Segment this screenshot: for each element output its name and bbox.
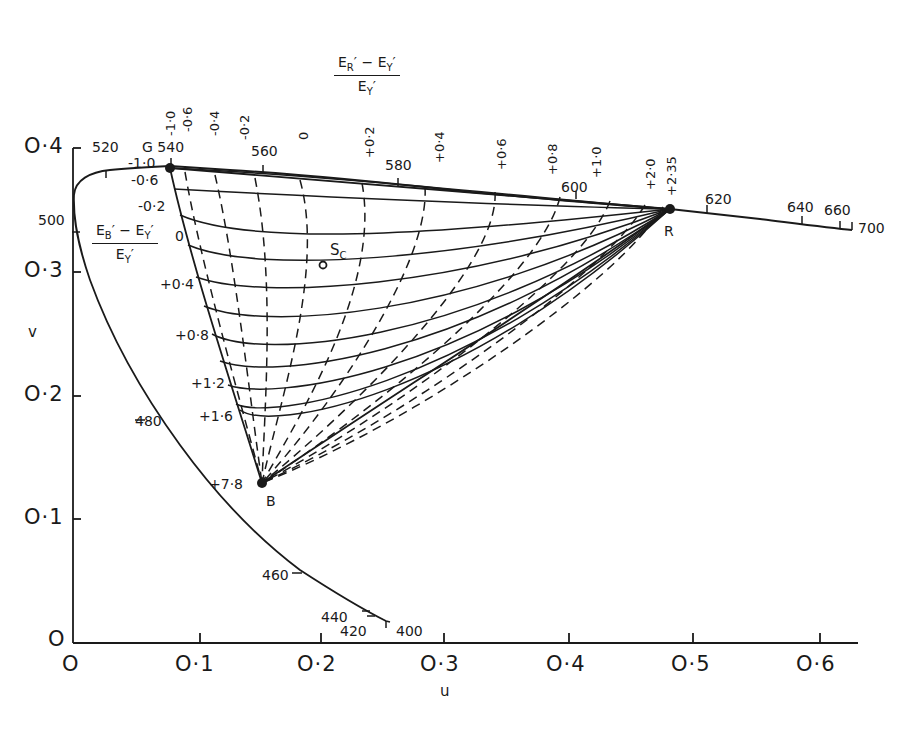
y-tick-3: O·3 [24, 258, 64, 282]
label-g: G 540 [142, 140, 184, 154]
wl-520: 520 [92, 140, 119, 154]
u-axis-label: u [440, 684, 450, 698]
y-tick-2: O·2 [24, 382, 64, 406]
red-difference-formula: ER′ − EY′ EY′ [334, 54, 400, 97]
wl-420: 420 [340, 624, 367, 638]
blue-val-pos7-8: +7·8 [209, 477, 243, 491]
blue-difference-formula: EB′ − EY′ EY′ [92, 222, 158, 265]
red-val-pos0-8: +0·8 [545, 143, 560, 175]
primary-b-label: B [266, 494, 276, 508]
blue-val-pos1-2: +1·2 [191, 376, 225, 390]
wl-700: 700 [858, 221, 885, 235]
blue-val-pos0-4: +0·4 [160, 277, 194, 291]
blue-val-pos0-8: +0·8 [175, 328, 209, 342]
x-tick-1: O·1 [175, 652, 215, 676]
red-val-pos1-0: +1·0 [589, 146, 604, 178]
y-tick-0: O [48, 627, 66, 651]
primary-r-point [665, 204, 675, 214]
v-axis-label: v [28, 325, 37, 339]
blue-val-neg0-2: -0·2 [138, 199, 165, 213]
x-tick-6: O·6 [796, 652, 836, 676]
white-point-label: SC [330, 243, 347, 263]
x-tick-2: O·2 [297, 652, 337, 676]
primary-g-point [165, 163, 175, 173]
wl-460: 460 [262, 568, 289, 582]
x-tick-0: O [62, 652, 80, 676]
red-val-pos0-4: +0·4 [432, 131, 447, 163]
blue-val-neg1-0: -1·0 [128, 156, 155, 170]
primary-b-point [257, 478, 267, 488]
red-val-pos0-6: +0·6 [494, 138, 509, 170]
wl-400: 400 [396, 624, 423, 638]
y-tick-1: O·1 [24, 505, 64, 529]
primary-g-label: G [142, 139, 153, 155]
y-tick-4: O·4 [24, 134, 64, 158]
blue-val-pos1-6: +1·6 [199, 409, 233, 423]
red-val-neg0-4: -0·4 [207, 111, 222, 136]
wl-600: 600 [561, 180, 588, 194]
red-val-neg1-0: -1·0 [163, 111, 178, 136]
wl-480: 480 [135, 414, 162, 428]
u-axis-ticks [200, 633, 820, 643]
wl-560: 560 [251, 144, 278, 158]
red-val-neg0-6: -0·6 [180, 107, 195, 132]
wl-620: 620 [705, 192, 732, 206]
triangle-edge-gb [170, 168, 262, 483]
wl-640: 640 [787, 200, 814, 214]
red-val-pos2-35: +2·35 [664, 156, 679, 196]
red-val-pos2-0: +2·0 [643, 158, 658, 190]
wl-660: 660 [824, 203, 851, 217]
chromaticity-diagram [0, 0, 915, 731]
primary-r-label: R [664, 224, 674, 238]
blue-val-0: 0 [175, 229, 184, 243]
red-difference-lines [185, 172, 663, 483]
wl-500: 500 [38, 213, 65, 227]
wl-580: 580 [385, 158, 412, 172]
red-val-neg0-2: -0·2 [237, 115, 252, 140]
blue-val-neg0-6: -0·6 [131, 173, 158, 187]
white-point-sc [320, 262, 327, 269]
x-tick-3: O·3 [420, 652, 460, 676]
red-val-pos0-2: +0·2 [362, 126, 377, 158]
wl-440: 440 [321, 610, 348, 624]
red-val-0: 0 [296, 132, 311, 140]
x-tick-4: O·4 [546, 652, 586, 676]
wl-540: 540 [157, 139, 184, 155]
x-tick-5: O·5 [671, 652, 711, 676]
spectrum-locus [74, 166, 852, 622]
